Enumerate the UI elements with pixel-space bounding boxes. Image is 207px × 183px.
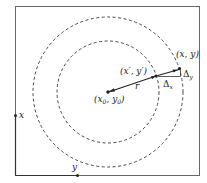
radius-label: r [135, 81, 140, 91]
axis-x-label: x [19, 110, 24, 120]
y-axis-end-dot [76, 174, 79, 177]
x-axis-end-dot [14, 114, 17, 117]
polar-diagram: x y (x0, y0) (x′, y′) (x, y) r Δx Δy [0, 0, 207, 183]
delta-y-label: Δy [183, 69, 194, 81]
axis-y-label: y [71, 162, 78, 172]
outer-point-label: (x, y) [176, 49, 199, 59]
center-label: (x0, y0) [94, 94, 125, 105]
displacement-arrowhead-icon [173, 70, 179, 73]
delta-x-label: Δx [163, 79, 174, 90]
radius-vector [110, 76, 156, 92]
inner-point-label: (x′, y′) [120, 66, 147, 76]
